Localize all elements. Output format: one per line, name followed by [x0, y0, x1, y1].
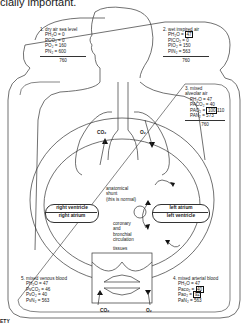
tissue-o2-label: O₂ — [146, 308, 152, 313]
right-ventricle-label: right ventricle — [48, 205, 96, 210]
coronary-note: coronary and bronchial circulation — [113, 221, 134, 243]
alveolar-air-box: 3. mixed alveolar air PH₂O = 47 PACO₂ = … — [185, 86, 225, 128]
tissue-box — [92, 253, 152, 303]
shunt-circle — [134, 206, 146, 218]
right-atrium-label: right atrium — [48, 213, 96, 218]
tissue-co2-label: CO₂ — [100, 308, 109, 313]
left-ventricle-label: left ventricle — [156, 213, 206, 218]
shunt-note: anatomical shunt (this is normal) — [106, 186, 136, 202]
page-fragment-text: ETY — [0, 318, 10, 324]
lung-o2-label: O₂ — [140, 130, 146, 135]
lung-co2-label: CO₂ — [97, 130, 106, 135]
venous-blood-box: 5. mixed venous blood PH₂O = 47 PvCO₂ = … — [21, 276, 67, 303]
left-atrium-label: left atrium — [156, 205, 206, 210]
dry-air-box: 1. dry air sea level PH₂O = 0 PCO₂ = 0 P… — [40, 27, 86, 63]
tissues-label: tissues — [113, 246, 127, 251]
arterial-blood-box: 4. mixed arterial blood PH₂O = 47 Paco₂ … — [173, 276, 218, 303]
trachea — [118, 82, 128, 130]
wet-air-box: 2. wet inspired air PH₂O = 47 PICO₂ = 0 … — [163, 27, 209, 63]
